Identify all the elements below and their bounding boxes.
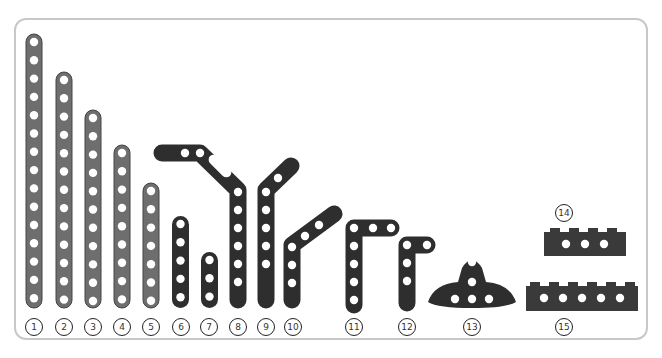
part-number-label: 12 xyxy=(398,318,416,336)
parts-illustration xyxy=(0,0,662,358)
beam-12 xyxy=(407,245,427,303)
part-number-label: 2 xyxy=(55,318,73,336)
part-number-label: 4 xyxy=(113,318,131,336)
part-number-label: 9 xyxy=(257,318,275,336)
part-number-label: 11 xyxy=(345,318,363,336)
part-number-label: 7 xyxy=(200,318,218,336)
part-number-label: 6 xyxy=(172,318,190,336)
part-number-label: 10 xyxy=(284,318,302,336)
part-number-label: 15 xyxy=(555,318,573,336)
beam-11 xyxy=(354,228,391,305)
part-number-label: 1 xyxy=(25,318,43,336)
part-number-label: 14 xyxy=(555,204,573,222)
part-number-label: 8 xyxy=(229,318,247,336)
beam-10 xyxy=(292,214,334,300)
part-number-label: 3 xyxy=(84,318,102,336)
part-number-label: 5 xyxy=(142,318,160,336)
beam-holes xyxy=(30,38,624,305)
part-number-label: 13 xyxy=(463,318,481,336)
